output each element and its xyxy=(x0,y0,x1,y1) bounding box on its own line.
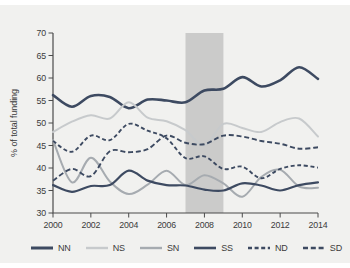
y-tick-label: 50 xyxy=(37,118,47,128)
legend-label-ns: NS xyxy=(113,243,125,253)
legend-item-ns: NS xyxy=(85,243,125,253)
x-tick-label: 2002 xyxy=(81,220,100,230)
legend-label-nn: NN xyxy=(58,243,71,253)
legend-item-nn: NN xyxy=(30,243,71,253)
legend-item-ss: SS xyxy=(193,243,233,253)
legend-label-sd: SD xyxy=(330,243,342,253)
legend-swatch-sn-line xyxy=(139,245,163,251)
chart-legend: NN NS SN SS ND SD xyxy=(30,240,342,256)
x-tick-label: 2014 xyxy=(309,220,328,230)
legend-swatch-nd-line xyxy=(247,245,271,251)
x-tick-label: 2004 xyxy=(119,220,138,230)
x-tick-label: 2000 xyxy=(44,220,63,230)
y-tick-label: 55 xyxy=(37,96,47,106)
y-tick-label: 65 xyxy=(37,51,47,61)
chart-panel: 3035404550556065702000200220042006200820… xyxy=(0,5,350,263)
legend-label-sn: SN xyxy=(167,243,179,253)
y-tick-label: 70 xyxy=(37,28,47,38)
x-tick-label: 2012 xyxy=(271,220,290,230)
line-chart-canvas: 3035404550556065702000200220042006200820… xyxy=(0,5,350,239)
legend-label-nd: ND xyxy=(275,243,288,253)
legend-item-sd: SD xyxy=(302,243,342,253)
y-tick-label: 30 xyxy=(37,208,47,218)
y-tick-label: 45 xyxy=(37,141,47,151)
x-tick-label: 2008 xyxy=(195,220,214,230)
legend-swatch-ns-line xyxy=(85,245,109,251)
legend-swatch-ss-line xyxy=(193,245,217,251)
legend-item-nd: ND xyxy=(247,243,288,253)
x-tick-label: 2006 xyxy=(157,220,176,230)
legend-label-ss: SS xyxy=(221,243,233,253)
y-tick-label: 60 xyxy=(37,73,47,83)
legend-swatch-sd-line xyxy=(302,245,326,251)
legend-item-sn: SN xyxy=(139,243,179,253)
legend-swatch-nn-line xyxy=(30,245,54,251)
x-tick-label: 2010 xyxy=(233,220,252,230)
y-axis-label: % of total funding xyxy=(9,89,19,157)
y-tick-label: 40 xyxy=(37,163,47,173)
y-tick-label: 35 xyxy=(37,186,47,196)
